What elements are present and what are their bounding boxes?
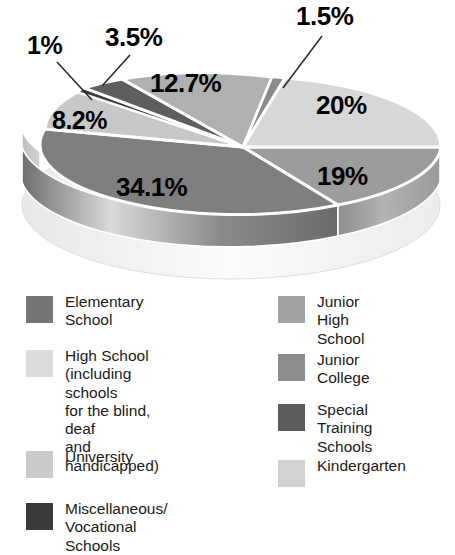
legend-swatch-junior-high-school (278, 296, 305, 323)
legend-swatch-elementary-school (26, 296, 53, 323)
legend-swatch-university (26, 451, 53, 478)
legend-label-junior-college: Junior College (317, 351, 370, 388)
legend-label-elementary-school: Elementary School (65, 293, 143, 330)
legend-label-kindergarten: Kindergarten (317, 457, 406, 475)
legend: Elementary School High School (including… (0, 288, 455, 545)
slice-value-university: 8.2% (52, 108, 107, 133)
legend-swatch-special-training-schools (278, 404, 305, 431)
legend-label-university: University (65, 448, 133, 466)
slice-value-miscellaneous-vocational-schools: 1% (27, 33, 62, 58)
legend-swatch-kindergarten (278, 460, 305, 487)
slice-value-junior-high-school: 19% (317, 163, 368, 189)
pie-svg (0, 0, 455, 290)
legend-swatch-high-school (26, 350, 53, 377)
slice-value-special-training-schools: 3.5% (105, 24, 162, 50)
legend-label-junior-high-school: Junior High School (317, 293, 364, 348)
pie-chart-graphic: 12.7% 20% 19% 34.1% 8.2% 3.5% 1% 1.5% (0, 0, 455, 290)
slice-value-junior-college: 12.7% (150, 70, 221, 96)
legend-label-miscellaneous-vocational-schools: Miscellaneous/ Vocational Schools (65, 500, 168, 555)
legend-label-special-training-schools: Special Training Schools (317, 401, 372, 456)
slice-value-high-school: 20% (316, 92, 367, 118)
legend-swatch-junior-college (278, 354, 305, 381)
legend-swatch-miscellaneous-vocational-schools (26, 503, 53, 530)
slice-value-elementary-school: 34.1% (116, 174, 187, 200)
slice-value-kindergarten: 1.5% (296, 3, 353, 29)
